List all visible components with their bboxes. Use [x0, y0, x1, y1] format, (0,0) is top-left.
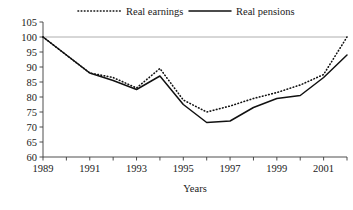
x-axis-ticks: [43, 157, 347, 161]
x-axis-tick-label: 1993: [126, 163, 147, 174]
x-axis-tick-label: 2001: [313, 163, 334, 174]
chart-container: Real earnings Real pensions 606570758085…: [0, 0, 353, 210]
y-axis-tick-label: 100: [21, 32, 37, 43]
x-axis-title: Years: [183, 183, 206, 194]
x-axis-tick-label: 1997: [220, 163, 241, 174]
x-axis-tick-label: 1999: [266, 163, 287, 174]
y-axis-tick-label: 95: [27, 47, 38, 58]
x-axis-tick-labels: 1989199119931995199719992001: [33, 163, 335, 174]
y-axis-tick-label: 105: [21, 17, 37, 28]
series-line-real-earnings: [43, 37, 347, 112]
y-axis-tick-label: 85: [27, 77, 38, 88]
series-line-real-pensions: [43, 37, 347, 123]
x-axis-tick-label: 1995: [173, 163, 194, 174]
y-axis-tick-label: 75: [27, 107, 38, 118]
x-axis-tick-label: 1991: [79, 163, 100, 174]
legend-label-real-pensions: Real pensions: [236, 6, 295, 17]
y-axis-tick-label: 60: [27, 152, 38, 163]
y-axis-ticks: [40, 22, 44, 157]
y-axis-tick-label: 90: [27, 62, 38, 73]
y-axis-tick-labels: 6065707580859095100105: [21, 17, 37, 163]
y-axis-tick-label: 70: [27, 122, 38, 133]
y-axis-tick-label: 65: [27, 137, 38, 148]
chart-legend: Real earnings Real pensions: [78, 6, 295, 17]
line-chart: Real earnings Real pensions 606570758085…: [0, 0, 353, 210]
y-axis-tick-label: 80: [27, 92, 38, 103]
x-axis-tick-label: 1989: [33, 163, 54, 174]
legend-label-real-earnings: Real earnings: [126, 6, 183, 17]
